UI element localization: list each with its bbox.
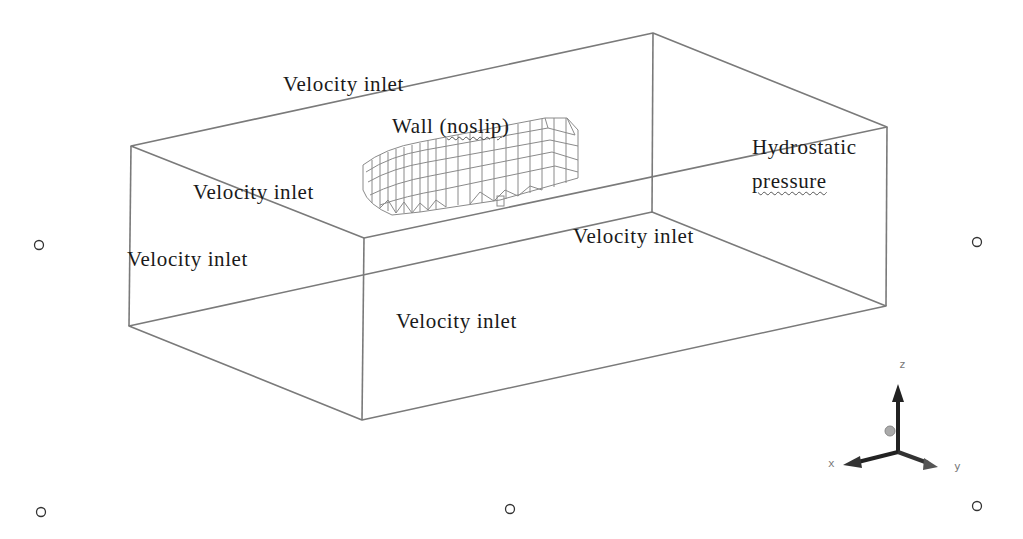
handle-right-middle[interactable] <box>973 238 982 247</box>
diagram-canvas: Velocity inlet Wall (noslip) Velocity in… <box>0 0 1023 539</box>
axis-label-y: y <box>954 461 961 472</box>
x-axis-arrow-icon <box>843 456 862 468</box>
label-front-velocity-inlet: Velocity inlet <box>396 311 517 332</box>
axis-label-x: x <box>828 458 835 469</box>
domain-box <box>129 33 887 420</box>
label-left-velocity-inlet: Velocity inlet <box>127 249 248 270</box>
label-outlet-pressure: pressure <box>752 171 827 192</box>
triad-origin-sphere-icon <box>885 426 895 436</box>
axis-triad <box>843 384 938 470</box>
axis-label-z: z <box>899 359 906 370</box>
handle-bottom-left[interactable] <box>37 508 46 517</box>
label-hull-wall-suffix: ) <box>502 114 510 138</box>
selection-handles <box>35 238 982 517</box>
handle-bottom-middle[interactable] <box>506 505 515 514</box>
label-top-velocity-inlet: Velocity inlet <box>283 74 404 95</box>
label-hull-wall: Wall (noslip) <box>392 116 510 137</box>
y-axis-arrow-icon <box>923 458 938 470</box>
label-outlet-hydrostatic: Hydrostatic <box>752 137 857 158</box>
label-hull-wall-flagged-word: noslip <box>447 114 502 138</box>
label-back-left-velocity-inlet: Velocity inlet <box>193 182 314 203</box>
handle-left-middle[interactable] <box>35 241 44 250</box>
label-hull-wall-prefix: Wall ( <box>392 114 447 138</box>
handle-bottom-right[interactable] <box>973 502 982 511</box>
z-axis-arrow-icon <box>892 384 904 402</box>
label-bottom-velocity-inlet: Velocity inlet <box>573 226 694 247</box>
